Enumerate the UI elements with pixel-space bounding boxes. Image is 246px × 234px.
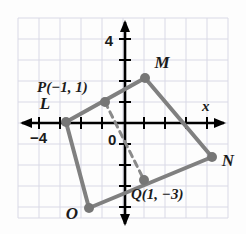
point-o: [84, 203, 94, 213]
label-n: N: [221, 151, 235, 170]
coordinate-plane-figure: L M N O P(−1, 1) Q(1, −3) 4 −4 0 x: [0, 0, 246, 234]
label-m: M: [153, 53, 170, 72]
point-l: [61, 117, 71, 127]
point-n: [207, 152, 217, 162]
label-p-coordinates: P(−1, 1): [37, 79, 88, 96]
point-m: [140, 73, 150, 83]
x-tick-label-neg4: −4: [30, 129, 48, 146]
graph-canvas: L M N O P(−1, 1) Q(1, −3) 4 −4 0 x: [0, 0, 246, 234]
y-tick-label-4: 4: [105, 32, 114, 49]
point-q: [139, 175, 149, 185]
x-axis-label: x: [201, 98, 210, 114]
label-q-coordinates: Q(1, −3): [131, 186, 183, 203]
origin-label: 0: [108, 131, 116, 148]
point-p: [100, 97, 110, 107]
label-o: O: [66, 204, 78, 223]
label-l: L: [39, 94, 50, 113]
